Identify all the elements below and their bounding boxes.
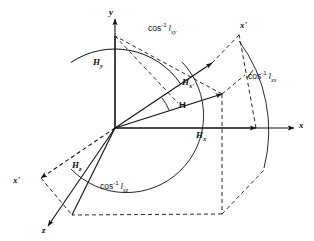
vector-label-H: H <box>179 100 186 110</box>
angle-xx-sup: -1 <box>261 70 266 76</box>
axis-label-y: y <box>109 8 113 17</box>
angle-label-xz: cos-1lxz <box>100 180 128 193</box>
box-bottom-line <box>72 214 222 215</box>
axis-label-z: z <box>42 226 46 235</box>
H-tip-to-xprime <box>222 75 245 94</box>
H-tip-to-y-axis <box>115 36 222 94</box>
xprime-dash-upper <box>212 33 241 63</box>
angle-label-xx: cos-1lxx <box>248 70 276 83</box>
component-Hx-base: H <box>196 130 203 140</box>
vector-H-line <box>115 94 222 128</box>
angle-xz-fn: cos <box>100 181 113 191</box>
component-Hxprime-sub: x' <box>189 82 194 89</box>
component-Hy-base: H <box>93 57 100 67</box>
component-label-Hx: Hx <box>196 131 206 142</box>
angle-xx-fn: cos <box>248 71 261 81</box>
component-label-Hx-prime: Hx' <box>182 78 194 89</box>
axis-label-x-prime-upper: x' <box>240 21 247 30</box>
diagram-canvas <box>0 0 314 241</box>
component-Hy-sub: y <box>100 62 103 69</box>
arc-angle-xx <box>239 41 269 168</box>
axis-lines <box>48 19 294 226</box>
component-Hz-base: H <box>72 160 79 170</box>
arc-angle-xy <box>71 18 181 128</box>
angle-label-xy: cos-1lxy <box>148 22 176 35</box>
angle-xx-symbol: lxx <box>269 71 277 81</box>
arc-small-origin <box>162 98 169 110</box>
angle-xy-sub: xy <box>171 29 176 35</box>
figure-root: y x z x' x' Hy Hx Hz Hx' H cos-1lxy cos-… <box>0 0 314 241</box>
component-Hx-sub: x <box>203 135 206 142</box>
angle-xx-sub: xx <box>271 77 276 83</box>
angle-xy-symbol: lxy <box>169 23 177 33</box>
component-label-Hz: Hz <box>72 161 82 172</box>
x-prime-axis-line <box>115 63 212 128</box>
vector-lines <box>115 94 222 128</box>
xprime-lower-dashed-foot <box>41 178 72 215</box>
component-Hxprime-base: H <box>182 77 189 87</box>
axis-label-x: x <box>299 121 304 130</box>
angle-xy-sup: -1 <box>161 22 166 28</box>
angle-xz-sub: xz <box>123 187 128 193</box>
component-Hz-sub: z <box>79 165 82 172</box>
component-label-Hy: Hy <box>93 58 103 69</box>
angle-xz-symbol: lxz <box>121 181 129 191</box>
z-axis-line <box>48 128 115 226</box>
angle-xy-fn: cos <box>148 23 161 33</box>
axis-label-x-prime-lower: x' <box>13 176 20 185</box>
box-right-slant <box>222 170 264 214</box>
angle-xz-sup: -1 <box>113 180 118 186</box>
angle-arcs <box>71 18 269 192</box>
